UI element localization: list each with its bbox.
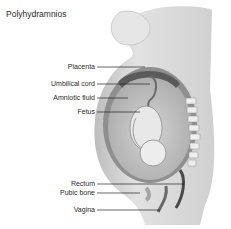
label-amniotic-fluid: Amniotic fluid (53, 94, 95, 101)
label-pubic-bone: Pubic bone (60, 189, 95, 196)
label-fetus: Fetus (77, 108, 95, 115)
label-rectum: Rectum (71, 180, 95, 187)
label-vagina: Vagina (74, 206, 95, 213)
label-placenta: Placenta (68, 63, 95, 70)
anatomy-illustration (0, 0, 231, 229)
label-umbilical-cord: Umbilical cord (51, 80, 95, 87)
